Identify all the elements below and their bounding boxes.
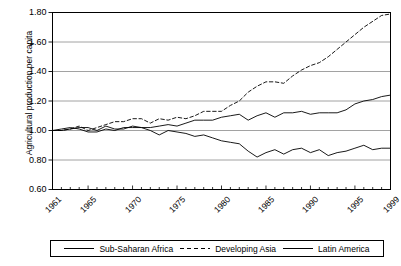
legend-swatch-dashed-icon <box>180 245 210 252</box>
legend-swatch-solid-icon <box>283 245 313 252</box>
series-line-latin-america <box>53 95 391 130</box>
legend-label: Developing Asia <box>215 244 276 254</box>
plot-area <box>0 0 401 266</box>
series-line-sub-saharan-africa <box>53 128 391 158</box>
legend-swatch-solid-icon <box>64 245 94 252</box>
chart-legend: Sub-Saharan Africa Developing Asia Latin… <box>50 240 384 257</box>
legend-item-sub-saharan-africa: Sub-Saharan Africa <box>64 244 173 254</box>
series-line-developing-asia <box>53 14 391 131</box>
legend-item-latin-america: Latin America <box>283 244 370 254</box>
legend-item-developing-asia: Developing Asia <box>180 244 276 254</box>
chart-container: Agricultural production per capita 0.600… <box>0 0 401 266</box>
legend-label: Sub-Saharan Africa <box>99 244 173 254</box>
legend-label: Latin America <box>318 244 370 254</box>
